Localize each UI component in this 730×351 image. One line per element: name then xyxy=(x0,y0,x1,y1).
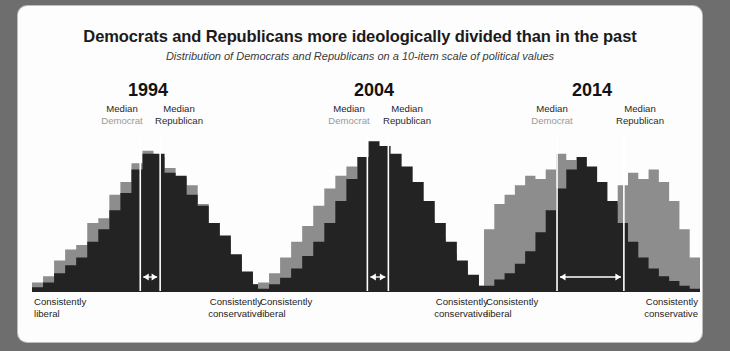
panel-2004: 2004 Median Democrat Median Republican C… xyxy=(258,80,490,330)
panel-1994: 1994 Median Democrat Median Republican C… xyxy=(32,80,264,330)
axis-label-liberal-line1: Consistently xyxy=(486,296,538,308)
axis-label-liberal-line1: Consistently xyxy=(34,296,86,308)
republican-word: Republican xyxy=(370,115,444,127)
axis-label-conservative: Consistently conservative xyxy=(434,296,488,319)
republican-word: Republican xyxy=(142,115,216,127)
axis-label-conservative-line2: conservative xyxy=(208,308,262,320)
axis-label-conservative-line1: Consistently xyxy=(434,296,488,308)
axis-label-conservative-line1: Consistently xyxy=(208,296,262,308)
area-republican xyxy=(32,154,264,292)
axis-label-conservative-line1: Consistently xyxy=(644,296,698,308)
panel-year-label: 1994 xyxy=(32,80,264,101)
axis-label-liberal-line2: liberal xyxy=(486,308,538,320)
panel-year-label: 2004 xyxy=(258,80,490,101)
axis-label-conservative-line2: conservative xyxy=(644,308,698,320)
axis-label-liberal-line2: liberal xyxy=(260,308,312,320)
axis-label-liberal: Consistently liberal xyxy=(34,296,86,319)
panel-2014: 2014 Median Democrat Median Republican C… xyxy=(484,80,700,330)
page-title: Democrats and Republicans more ideologic… xyxy=(18,27,702,46)
median-word: Median xyxy=(370,103,444,115)
axis-label-conservative: Consistently conservative xyxy=(208,296,262,319)
axis-label-conservative: Consistently conservative xyxy=(644,296,698,319)
axis-label-liberal: Consistently liberal xyxy=(486,296,538,319)
democrat-word: Democrat xyxy=(515,115,589,127)
median-republican-label: Median Republican xyxy=(370,103,444,126)
distribution-plot-2014 xyxy=(484,135,700,292)
median-word: Median xyxy=(603,103,677,115)
median-democrat-label: Median Democrat xyxy=(515,103,589,126)
page-subtitle: Distribution of Democrats and Republican… xyxy=(18,50,702,62)
infographic-card: Democrats and Republicans more ideologic… xyxy=(18,6,702,342)
republican-word: Republican xyxy=(603,115,677,127)
median-word: Median xyxy=(142,103,216,115)
axis-label-liberal: Consistently liberal xyxy=(260,296,312,319)
median-republican-label: Median Republican xyxy=(142,103,216,126)
area-republican xyxy=(258,141,490,292)
page-background: Democrats and Republicans more ideologic… xyxy=(0,0,730,351)
distribution-plot-1994 xyxy=(32,135,264,292)
panel-year-label: 2014 xyxy=(484,80,700,101)
median-word: Median xyxy=(515,103,589,115)
axis-label-conservative-line2: conservative xyxy=(434,308,488,320)
axis-label-liberal-line2: liberal xyxy=(34,308,86,320)
distribution-plot-2004 xyxy=(258,135,490,292)
median-republican-label: Median Republican xyxy=(603,103,677,126)
axis-label-liberal-line1: Consistently xyxy=(260,296,312,308)
